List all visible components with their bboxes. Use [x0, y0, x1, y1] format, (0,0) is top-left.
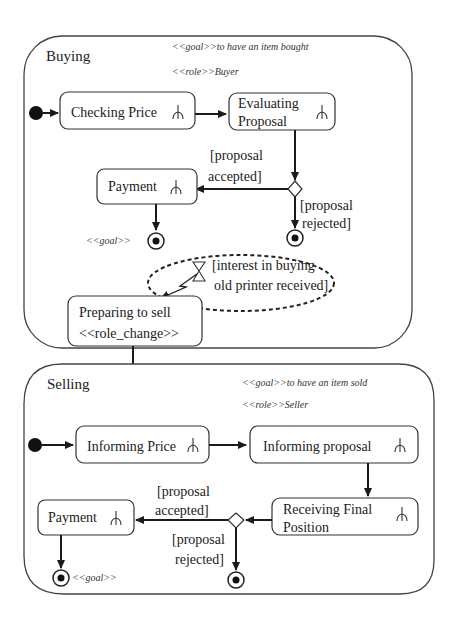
selling-final-node-rejected [228, 572, 244, 588]
buying-title: Buying [46, 48, 91, 64]
state-payment-selling[interactable]: Payment [38, 500, 134, 535]
state-evaluating-proposal[interactable]: Evaluating Proposal [229, 93, 335, 130]
selling-role-stereotype: <<role>>Seller [242, 399, 308, 410]
state-label: Informing Price [87, 439, 176, 454]
buying-goal-stereotype: <<goal>>to have an item bought [172, 41, 309, 52]
state-informing-proposal[interactable]: Informing proposal [250, 426, 418, 463]
selling-goal-stereotype: <<goal>>to have an item sold [242, 377, 368, 388]
guard-accepted-line1: [proposal [157, 484, 210, 499]
state-label-line1: Receiving Final [283, 502, 372, 517]
buying-role-stereotype: <<role>>Buyer [172, 66, 239, 77]
selling-region-frame [24, 364, 434, 594]
guard-rejected-line2: rejected] [175, 552, 224, 567]
state-informing-price[interactable]: Informing Price [76, 426, 209, 463]
guard-rejected-line1: [proposal [172, 532, 225, 547]
buying-final-node-goal [148, 233, 164, 249]
event-label-line2: old printer received] [214, 278, 328, 293]
guard-accepted-line2: accepted] [208, 169, 262, 184]
state-checking-price[interactable]: Checking Price [60, 92, 195, 129]
state-label-line1: Evaluating [238, 96, 299, 111]
selling-initial-node [28, 438, 42, 452]
state-label: Informing proposal [263, 439, 372, 454]
selling-title: Selling [47, 376, 90, 392]
state-label-line2: <<role_change>> [79, 326, 179, 341]
buying-region: Buying <<goal>>to have an item bought <<… [24, 36, 412, 348]
buying-final-goal-label: <<goal>> [86, 235, 131, 246]
selling-final-node-goal [53, 570, 69, 586]
selling-region: Selling <<goal>>to have an item sold <<r… [24, 364, 434, 594]
guard-rejected-line1: [proposal [300, 198, 353, 213]
buying-final-node-rejected [287, 230, 303, 246]
guard-accepted-line2: accepted] [155, 503, 209, 518]
state-label: Payment [48, 510, 97, 525]
state-label: Payment [108, 179, 157, 194]
state-payment-buying[interactable]: Payment [97, 169, 197, 204]
state-diagram: Buying <<goal>>to have an item bought <<… [0, 0, 458, 626]
state-label-line1: Preparing to sell [79, 305, 171, 320]
buying-initial-node [29, 106, 43, 120]
state-label-line2: Position [283, 520, 329, 535]
state-label: Checking Price [71, 105, 157, 120]
state-preparing-to-sell[interactable]: Preparing to sell <<role_change>> [68, 296, 202, 346]
state-receiving-final-position[interactable]: Receiving Final Position [272, 498, 418, 535]
selling-final-goal-label: <<goal>> [72, 572, 117, 583]
guard-rejected-line2: rejected] [302, 216, 351, 231]
guard-accepted-line1: [proposal [210, 148, 263, 163]
state-label-line2: Proposal [238, 114, 287, 129]
event-label-line1: [interest in buying [212, 258, 315, 273]
